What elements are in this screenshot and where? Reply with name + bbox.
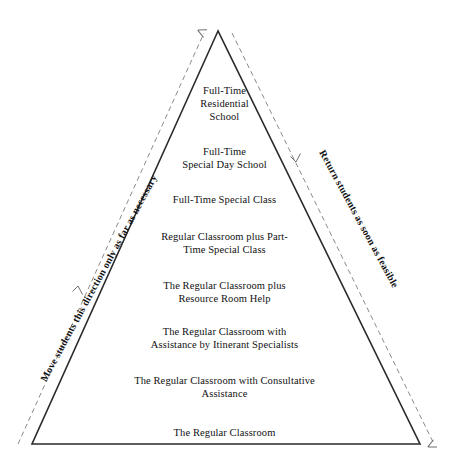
right-mid-arrowhead: [291, 154, 301, 163]
left-mid-arrowhead: [73, 286, 83, 295]
cascade-triangle-diagram: Full-Time Residential School Full-Time S…: [0, 0, 449, 470]
triangle-graphic: [0, 0, 449, 470]
right-dashed-arrow: [232, 33, 434, 444]
triangle-outline: [32, 31, 420, 444]
